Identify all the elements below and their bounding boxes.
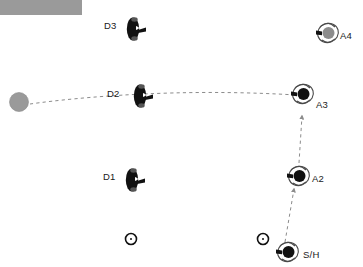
agent-a2-icon (286, 164, 312, 189)
cap-top (138, 84, 144, 88)
agent-label-a2: A2 (312, 174, 324, 184)
agent-d2-icon (134, 84, 153, 107)
attacker-path-sh-to-a2 (285, 189, 294, 242)
body (283, 246, 295, 258)
body (298, 88, 310, 100)
attacker-path-a2-to-a3 (299, 116, 302, 163)
waypoint-marker-group (126, 234, 269, 245)
cap-top (131, 17, 137, 21)
agent-label-d1: D1 (103, 172, 116, 182)
body (294, 170, 306, 182)
cap-bottom (138, 103, 144, 107)
nose-nub (287, 173, 293, 178)
target-trajectory (30, 92, 296, 104)
figure-canvas: D3D2D1A4A3A2S/H (0, 0, 363, 267)
agent-a3-icon (290, 82, 316, 107)
agent-label-a3: A3 (316, 100, 328, 110)
vector-layer (0, 0, 363, 267)
nose-nub (291, 91, 297, 96)
agent-label-d2: D2 (107, 89, 120, 99)
agent-a4-icon (315, 21, 341, 46)
arc-bottom (297, 100, 310, 103)
trajectory-group (30, 92, 302, 242)
nose-nub (316, 30, 322, 35)
cap-bottom (131, 36, 137, 40)
agent-d3-icon (127, 17, 146, 40)
arc-bottom (282, 258, 295, 261)
arc-bottom (322, 39, 335, 42)
agent-label-a4: A4 (340, 31, 352, 41)
fin-right (145, 95, 153, 101)
cap-top (130, 168, 136, 172)
agent-sh-icon (275, 240, 301, 265)
arc-bottom (293, 182, 306, 185)
body (323, 27, 335, 39)
agent-d1-icon (126, 168, 145, 191)
agent-label-d3: D3 (104, 21, 117, 31)
waypoint-marker-right-center-dot (262, 238, 264, 240)
agent-group (126, 17, 341, 264)
agent-label-sh: S/H (303, 250, 319, 260)
nose-nub (276, 249, 282, 254)
fin-right (137, 179, 145, 185)
fin-right (138, 28, 146, 34)
target-group (10, 93, 29, 112)
waypoint-marker-left-center-dot (130, 238, 132, 240)
target-disc (10, 93, 29, 112)
cap-bottom (130, 187, 136, 191)
